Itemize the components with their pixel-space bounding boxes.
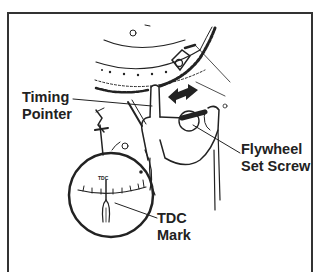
pointer-bracket: [95, 108, 128, 155]
timing-pointer-label-line1: Timing: [22, 89, 72, 106]
tdc-mark-label-line2: Mark: [157, 227, 191, 244]
inset-tdc-scale-label: TDC: [98, 175, 109, 181]
tdc-mark-label: TDC Mark: [157, 210, 191, 244]
tdc-inset-magnifier: [69, 150, 157, 237]
flywheel: [95, 25, 230, 108]
flywheel-set-screw-label: Flywheel Set Screw: [241, 141, 310, 175]
timing-pointer-label: Timing Pointer: [22, 89, 72, 123]
tdc-mark-label-line1: TDC: [157, 210, 191, 227]
flywheel-set-screw-label-line2: Set Screw: [241, 158, 310, 175]
flywheel-set-screw-label-line1: Flywheel: [241, 141, 310, 158]
timing-pointer-label-line2: Pointer: [22, 106, 72, 123]
hand-with-screwdriver: [128, 100, 240, 210]
adjust-direction-arrow-icon: [168, 84, 198, 104]
